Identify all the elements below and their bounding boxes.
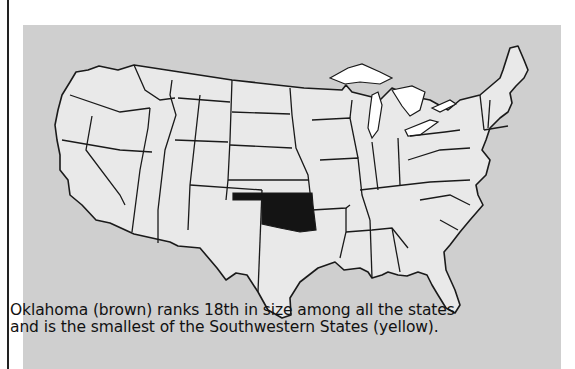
caption-line-2: and is the smallest of the Southwestern … xyxy=(10,319,540,336)
map-caption: Oklahoma (brown) ranks 18th in size amon… xyxy=(10,302,540,336)
caption-line-1: Oklahoma (brown) ranks 18th in size amon… xyxy=(10,302,540,319)
frame-divider xyxy=(7,0,9,369)
us-outline xyxy=(55,46,528,318)
lake-superior xyxy=(330,64,392,84)
